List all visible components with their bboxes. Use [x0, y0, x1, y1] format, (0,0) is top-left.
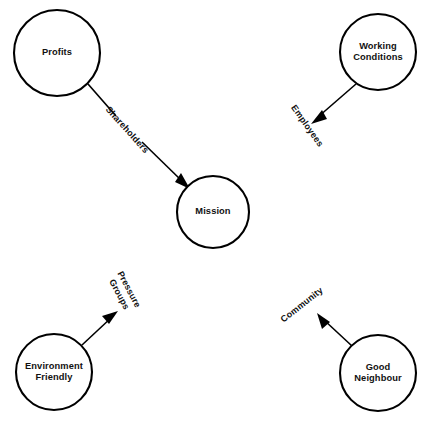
- arrow-head-icon: [102, 311, 118, 324]
- diagram-canvas: [0, 0, 429, 429]
- edge-environment-pressure: [82, 311, 118, 345]
- node-circle-environment[interactable]: [16, 334, 92, 410]
- edge-line-segment: [318, 84, 356, 117]
- edge-working-employees: [311, 84, 356, 124]
- edge-line-segment: [88, 84, 116, 116]
- stakeholder-diagram: Profits Working Conditions Mission Envir…: [0, 0, 429, 429]
- edge-profits-mission: [88, 84, 190, 189]
- node-circle-neighbour[interactable]: [340, 335, 416, 411]
- node-circle-mission[interactable]: [177, 176, 249, 248]
- edge-neighbour-community: [317, 313, 352, 346]
- node-circle-profits[interactable]: [14, 10, 100, 96]
- edge-line-segment: [142, 142, 183, 182]
- arrow-head-icon: [317, 313, 330, 329]
- edge-line-segment: [324, 320, 352, 346]
- node-circle-working[interactable]: [340, 14, 416, 90]
